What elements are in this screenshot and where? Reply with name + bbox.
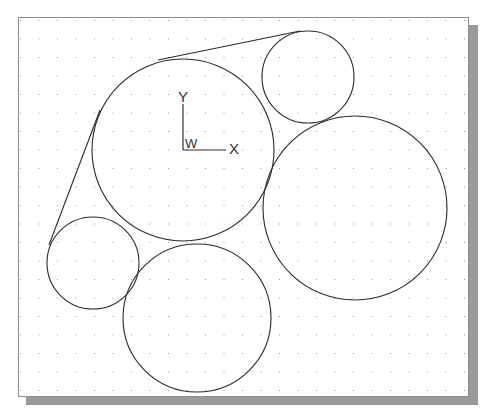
ucs-y-label: Y <box>178 88 188 105</box>
ucs-w-label: W <box>185 136 198 151</box>
large-right-circle[interactable] <box>263 116 447 300</box>
drawing-canvas[interactable]: Y X W <box>0 0 495 416</box>
top-tangent-line[interactable] <box>158 31 300 60</box>
grid-dots <box>20 20 465 391</box>
small-left-circle[interactable] <box>47 217 139 309</box>
ucs-x-label: X <box>229 140 239 157</box>
bottom-circle[interactable] <box>123 244 271 392</box>
left-tangent-line[interactable] <box>49 110 100 245</box>
small-top-right-circle[interactable] <box>262 31 354 123</box>
drawing-entities[interactable] <box>47 31 447 392</box>
ucs-icon: Y X W <box>178 88 239 157</box>
